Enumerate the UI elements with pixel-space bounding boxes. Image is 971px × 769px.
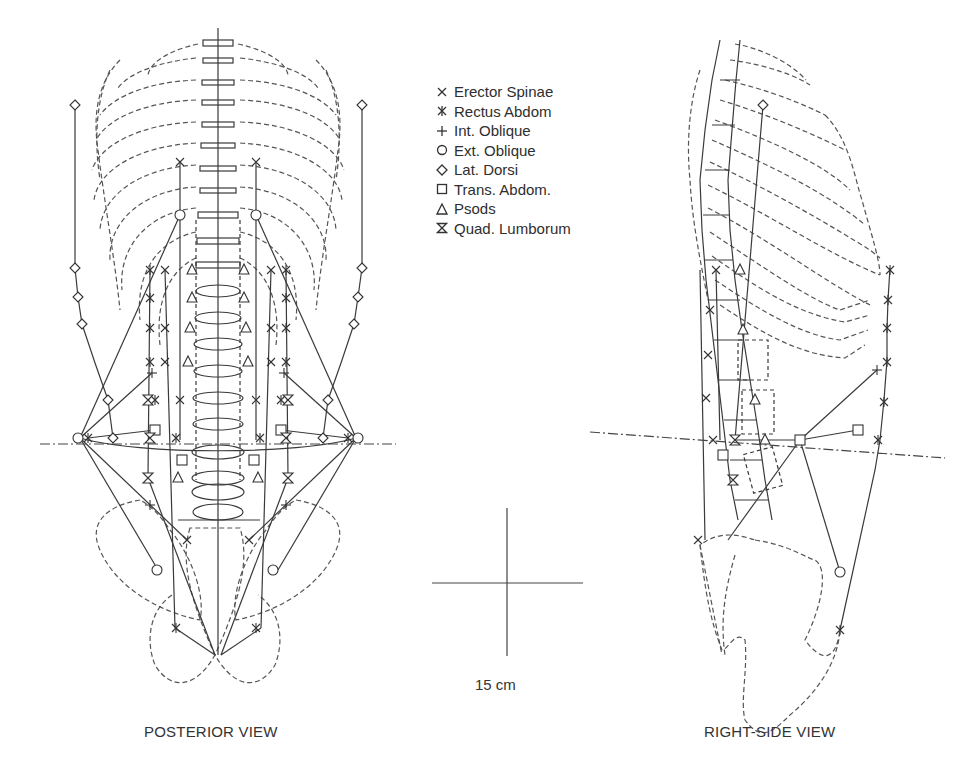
right-side-view-caption: RIGHT-SIDE VIEW — [704, 723, 835, 740]
scale-bar-label: 15 cm — [475, 676, 516, 693]
side-markers — [694, 100, 894, 635]
legend-label: Quad. Lumborum — [454, 220, 571, 237]
right-side-view — [590, 40, 945, 733]
legend: Erector Spinae Rectus Abdom Int. Oblique… — [436, 82, 571, 238]
x-mark-icon — [436, 86, 454, 98]
legend-item-psods: Psods — [436, 199, 571, 219]
hourglass-icon — [436, 222, 454, 234]
circle-icon — [436, 144, 454, 156]
scale-bar — [432, 508, 583, 656]
square-icon — [436, 183, 454, 195]
triangle-icon — [436, 203, 454, 215]
legend-label: Psods — [454, 200, 496, 217]
legend-item-lat-dorsi: Lat. Dorsi — [436, 160, 571, 180]
side-pelvis — [700, 535, 840, 733]
legend-label: Int. Oblique — [454, 122, 531, 139]
legend-label: Erector Spinae — [454, 83, 553, 100]
legend-item-int-oblique: Int. Oblique — [436, 121, 571, 141]
posterior-view-caption: POSTERIOR VIEW — [144, 723, 278, 740]
asterisk-icon — [436, 105, 454, 117]
legend-item-quad-lumborum: Quad. Lumborum — [436, 219, 571, 239]
side-spine — [700, 40, 783, 520]
plus-icon — [436, 125, 454, 137]
legend-label: Ext. Oblique — [454, 142, 536, 159]
legend-item-erector-spinae: Erector Spinae — [436, 82, 571, 102]
legend-item-trans-abdom: Trans. Abdom. — [436, 180, 571, 200]
vertebral-column — [192, 28, 244, 655]
legend-item-rectus-abdom: Rectus Abdom — [436, 102, 571, 122]
legend-item-ext-oblique: Ext. Oblique — [436, 141, 571, 161]
legend-label: Trans. Abdom. — [454, 181, 551, 198]
legend-label: Lat. Dorsi — [454, 161, 518, 178]
diamond-icon — [436, 164, 454, 176]
side-reference-line — [590, 432, 945, 458]
legend-label: Rectus Abdom — [454, 103, 552, 120]
posterior-view — [40, 28, 396, 683]
